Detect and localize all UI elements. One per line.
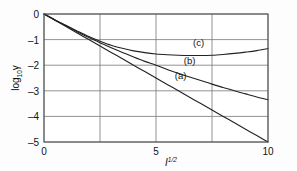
x-axis-title: I1/2 <box>165 156 177 168</box>
annotation-curve-c: (c) <box>193 37 204 48</box>
ytick-label-minus1: –1 <box>28 35 40 46</box>
ytick-label-minus2: –2 <box>28 60 40 71</box>
svg-text:log10γ: log10γ <box>10 65 23 91</box>
xtick-label-0: 0 <box>41 146 47 157</box>
ytick-label-minus5: –5 <box>28 137 40 148</box>
ytick-label-minus3: –3 <box>28 86 40 97</box>
y-axis-title: log10γ <box>10 65 23 91</box>
x-axis-title-exponent: 1/2 <box>168 156 177 163</box>
chart-svg: 0 –1 –2 –3 –4 –5 0 5 10 log10γ I1/2 (a) … <box>0 0 297 171</box>
ytick-label-0: 0 <box>33 9 39 20</box>
xtick-label-5: 5 <box>153 146 159 157</box>
ytick-label-minus4: –4 <box>28 111 40 122</box>
xtick-label-10: 10 <box>262 146 274 157</box>
y-axis-title-log: log <box>10 77 21 90</box>
annotation-curve-b: (b) <box>184 55 196 66</box>
figure-container: 0 –1 –2 –3 –4 –5 0 5 10 log10γ I1/2 (a) … <box>0 0 297 171</box>
y-axis-title-gamma: γ <box>10 65 21 70</box>
annotation-curve-a: (a) <box>175 70 187 81</box>
